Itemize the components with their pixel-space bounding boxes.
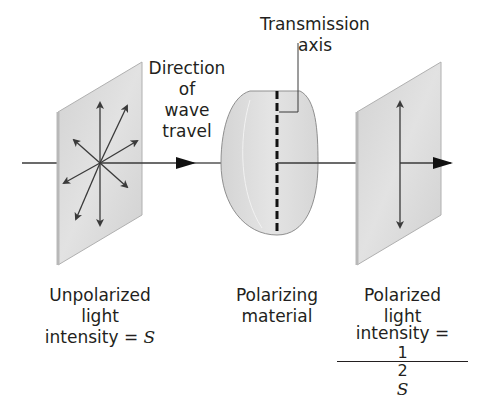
polarizing-material-label: Polarizing material (222, 285, 332, 327)
direction-of-wave-travel-label: Direction of wave travel (142, 58, 232, 142)
polarizing-material-lens (221, 91, 318, 235)
polarized-light-label: Polarized light intensity = 12S (335, 285, 470, 399)
transmission-axis-label: Transmission axis (250, 14, 380, 56)
unpolarized-light-label: Unpolarized light intensity = S (35, 285, 165, 348)
one-half-fraction: 12 (337, 344, 468, 379)
unpolarized-light-panel (58, 62, 142, 265)
